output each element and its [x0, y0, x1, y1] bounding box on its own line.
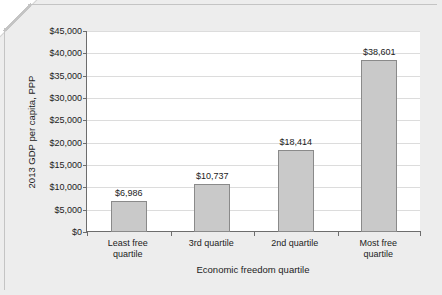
gridline: [87, 31, 420, 32]
x-tick-label: Least free quartile: [86, 238, 170, 260]
y-tick-mark: [83, 31, 87, 32]
y-tick-mark: [83, 120, 87, 121]
bar[interactable]: [278, 150, 314, 232]
bar-value-label: $10,737: [172, 171, 252, 181]
y-tick-label: $45,000: [49, 26, 82, 36]
x-axis-title: Economic freedom quartile: [86, 264, 420, 275]
y-tick-label: $35,000: [49, 71, 82, 81]
y-tick-label: $30,000: [49, 93, 82, 103]
bar-value-label: $38,601: [339, 47, 419, 57]
bar[interactable]: [361, 60, 397, 232]
x-tick-mark: [338, 231, 339, 236]
y-tick-label: $0: [72, 227, 82, 237]
x-tick-label: Most free quartile: [337, 238, 421, 260]
y-tick-mark: [83, 165, 87, 166]
y-tick-label: $25,000: [49, 115, 82, 125]
y-tick-label: $5,000: [54, 205, 82, 215]
y-axis-title: 2013 GDP per capita, PPP: [24, 31, 38, 232]
y-tick-mark: [83, 98, 87, 99]
plot-area: $6,986$10,737$18,414$38,601: [86, 31, 420, 232]
y-tick-label: $10,000: [49, 182, 82, 192]
x-tick-mark: [420, 231, 421, 236]
bar[interactable]: [194, 184, 230, 232]
y-axis-title-text: 2013 GDP per capita, PPP: [26, 75, 37, 188]
y-tick-mark: [83, 210, 87, 211]
bar-value-label: $18,414: [256, 137, 336, 147]
y-tick-mark: [83, 76, 87, 77]
x-tick-mark: [171, 231, 172, 236]
x-tick-mark: [254, 231, 255, 236]
y-tick-label: $40,000: [49, 48, 82, 58]
y-tick-label: $20,000: [49, 138, 82, 148]
x-tick-label: 3rd quartile: [170, 238, 254, 249]
x-tick-label: 2nd quartile: [253, 238, 337, 249]
y-tick-mark: [83, 53, 87, 54]
canvas-edge-top: [28, 4, 437, 5]
bar[interactable]: [111, 201, 147, 232]
y-tick-label: $15,000: [49, 160, 82, 170]
y-tick-mark: [83, 143, 87, 144]
y-tick-mark: [83, 187, 87, 188]
chart-figure: $0$5,000$10,000$15,000$20,000$25,000$30,…: [0, 0, 442, 295]
bar-value-label: $6,986: [89, 188, 169, 198]
y-axis-tick-labels: $0$5,000$10,000$15,000$20,000$25,000$30,…: [0, 0, 82, 295]
x-tick-mark: [87, 231, 88, 236]
